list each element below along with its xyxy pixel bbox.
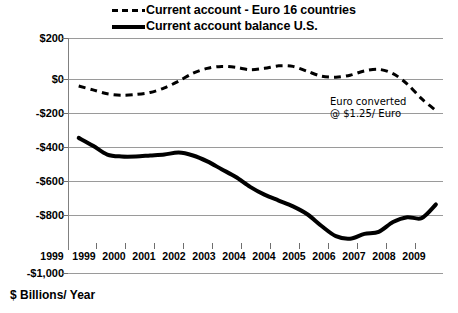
legend-item-us: Current account balance U.S. [112, 18, 356, 34]
y-tick-label-1: $0 [4, 73, 64, 85]
x-tick-mark-8 [299, 243, 300, 249]
chart-root: Current account - Euro 16 countries Curr… [0, 0, 458, 313]
x-tick-label-6: 2004 [217, 250, 251, 262]
gridline-m1000 [68, 273, 443, 274]
x-tick-mark-4 [183, 243, 184, 249]
x-tick-mark-9 [328, 243, 329, 249]
y-tick-label-3: -$400 [4, 141, 64, 153]
x-tick-label-11: 2008 [367, 250, 401, 262]
gridline-200 [68, 38, 443, 39]
gridline-m400 [68, 147, 443, 148]
x-tick-label-8: 2005 [277, 250, 311, 262]
y-tick-label-2: -$200 [4, 107, 64, 119]
x-tick-label-1: 1999 [67, 250, 101, 262]
y-axis-line [68, 38, 69, 250]
legend-label-us: Current account balance U.S. [146, 19, 318, 33]
x-tick-mark-5 [212, 243, 213, 249]
x-tick-mark-2 [125, 243, 126, 249]
legend-item-euro: Current account - Euro 16 countries [112, 2, 356, 18]
axis-unit-label: $ Billions/ Year [10, 288, 95, 302]
x-tick-mark-11 [386, 243, 387, 249]
annotation-line-2: @ $1.25/ Euro [330, 108, 450, 120]
y-tick-label-4: -$600 [4, 175, 64, 187]
x-tick-label-2: 2000 [97, 250, 131, 262]
gridline-m800 [68, 215, 443, 216]
solid-line-icon [112, 20, 145, 32]
annotation-line-1: Euro converted [330, 96, 450, 108]
x-tick-mark-1 [96, 243, 97, 249]
x-tick-mark-12 [415, 243, 416, 249]
x-tick-label-7: 2004 [247, 250, 281, 262]
chart-legend: Current account - Euro 16 countries Curr… [112, 2, 356, 34]
x-tick-label-12: 2009 [397, 250, 431, 262]
x-tick-mark-6 [241, 243, 242, 249]
x-tick-mark-7 [270, 243, 271, 249]
legend-label-euro: Current account - Euro 16 countries [146, 3, 356, 17]
x-tick-mark-10 [357, 243, 358, 249]
x-tick-mark-3 [154, 243, 155, 249]
gridline-0 [68, 79, 443, 80]
x-tick-label-9: 2006 [307, 250, 341, 262]
y-tick-label-0: $200 [4, 32, 64, 44]
y-tick-label-6: -$1,000 [4, 267, 64, 279]
x-tick-label-10: 2007 [337, 250, 371, 262]
x-tick-label-5: 2003 [187, 250, 221, 262]
x-tick-label-4: 2002 [157, 250, 191, 262]
euro-conversion-annotation: Euro converted @ $1.25/ Euro [330, 96, 450, 120]
dashed-line-icon [112, 4, 145, 16]
plot-area [68, 38, 443, 248]
x-tick-label-3: 2001 [127, 250, 161, 262]
x-tick-label-0: 1999 [35, 250, 69, 262]
gridline-m600 [68, 181, 443, 182]
y-tick-label-5: -$800 [4, 209, 64, 221]
